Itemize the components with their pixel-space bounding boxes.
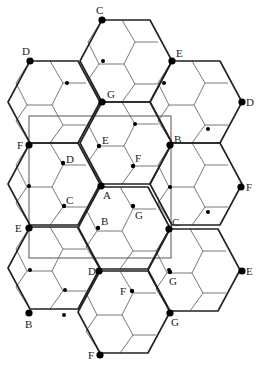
major-point [25, 141, 32, 148]
point-label: E [246, 265, 253, 277]
subdivision-line [156, 273, 170, 311]
major-point [96, 351, 103, 358]
major-point [168, 57, 175, 64]
major-point [166, 141, 173, 148]
major-point [98, 98, 105, 105]
point-label: B [174, 133, 181, 145]
point-label: D [88, 265, 96, 277]
subdivision-line [158, 105, 172, 143]
minor-point [63, 288, 67, 292]
major-point [98, 16, 105, 23]
subdivision-line [122, 64, 135, 102]
minor-point [101, 59, 105, 63]
point-label: C [172, 216, 179, 228]
subdivision-line [192, 187, 205, 225]
major-point [238, 267, 245, 274]
major-point [25, 309, 32, 316]
minor-point [28, 268, 32, 272]
point-label: C [66, 194, 73, 206]
point-label: G [107, 88, 115, 100]
subdivision-line [158, 165, 205, 187]
hexagon-outlines [8, 20, 242, 353]
subdivision-line [16, 271, 30, 309]
minor-point [131, 204, 135, 208]
point-label: D [22, 45, 30, 57]
point-label: F [17, 139, 23, 151]
subdivision-line [50, 271, 63, 309]
point-label: G [169, 275, 177, 287]
subdivision-line [88, 124, 135, 146]
minor-point [131, 164, 135, 168]
point-label: D [66, 153, 74, 165]
point-label: F [246, 181, 252, 193]
minor-point [96, 226, 100, 230]
minor-point [27, 184, 31, 188]
point-label: G [135, 209, 143, 221]
point-label: F [88, 349, 94, 361]
subdivision-line [16, 105, 30, 143]
minor-point [65, 81, 69, 85]
minor-point [206, 127, 210, 131]
minor-point [130, 289, 134, 293]
point-label: B [25, 318, 32, 330]
point-label: E [102, 134, 109, 146]
subdivision-line [86, 209, 133, 231]
major-point [95, 267, 102, 274]
major-point [238, 98, 245, 105]
diagram-canvas: EFDCBGGFCEDGDFBAFECDEBGF [0, 0, 260, 366]
point-label: D [246, 96, 254, 108]
subdivision-line [192, 105, 205, 143]
subdivision-line [50, 105, 63, 143]
subdivision-line [120, 315, 133, 353]
minor-point [97, 144, 101, 148]
point-label: B [101, 215, 108, 227]
subdivision-line [50, 187, 63, 225]
subdivision-line [158, 83, 205, 105]
subdivision-line [16, 165, 63, 187]
subdivision-line [16, 249, 63, 271]
point-label: G [171, 316, 179, 328]
hexagon-tiling-diagram: EFDCBGGFCEDGDFBAFECDEBGF [0, 0, 260, 366]
point-label: C [96, 4, 103, 16]
minor-point [61, 161, 65, 165]
major-point [237, 183, 244, 190]
minor-point [133, 122, 137, 126]
subdivision-line [88, 42, 135, 64]
point-label: E [176, 47, 183, 59]
subdivision-line [190, 273, 203, 311]
minor-point [206, 210, 210, 214]
point-label: A [103, 189, 111, 201]
point-label: F [135, 152, 141, 164]
subdivision-line [156, 251, 203, 273]
subdivision-line [16, 187, 30, 225]
point-label: F [120, 285, 126, 297]
minor-point [168, 270, 172, 274]
major-point [25, 224, 32, 231]
minor-point [168, 185, 172, 189]
minor-point [62, 313, 66, 317]
subdivision-line [86, 315, 100, 353]
major-point [26, 57, 33, 64]
minor-point [162, 81, 166, 85]
subdivision-line [120, 231, 133, 269]
subdivision-line [16, 83, 63, 105]
point-label: E [15, 222, 22, 234]
